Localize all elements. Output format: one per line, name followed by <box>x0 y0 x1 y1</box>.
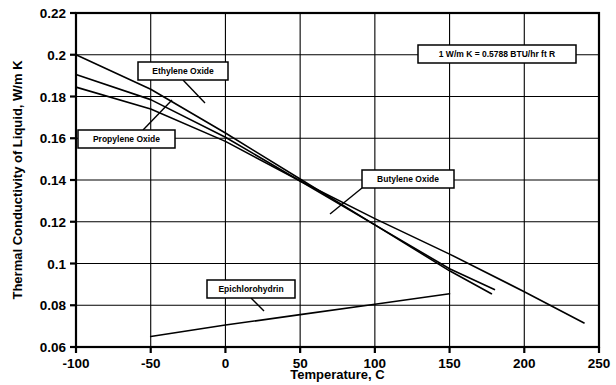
thermal-conductivity-chart: 0.060.080.10.120.140.160.180.20.22-100-5… <box>0 0 616 385</box>
series-line-butylene-oxide <box>76 87 584 323</box>
y-tick-labels: 0.060.080.10.120.140.160.180.20.22 <box>40 6 67 355</box>
butylene-oxide-label-text: Butylene Oxide <box>377 174 439 184</box>
ethylene-oxide-label-text: Ethylene Oxide <box>152 66 214 76</box>
epichlorohydrin-leader-line <box>251 298 264 311</box>
y-tick-label: 0.1 <box>47 257 66 272</box>
y-tick-label: 0.18 <box>40 90 67 105</box>
butylene-oxide-callout[interactable]: Butylene Oxide <box>330 170 454 214</box>
ethylene-oxide-leader-line <box>183 80 205 103</box>
x-tick-label: -50 <box>141 356 161 371</box>
unit-conversion-note: 1 W/m K = 0.5788 BTU/hr ft R <box>418 45 576 63</box>
propylene-oxide-label-text: Propylene Oxide <box>93 134 160 144</box>
epichlorohydrin-label-text: Epichlorohydrin <box>218 284 283 294</box>
chart-canvas: 0.060.080.10.120.140.160.180.20.22-100-5… <box>0 0 616 385</box>
y-axis-title: Thermal Conductivity of Liquid, W/m K <box>10 60 25 300</box>
epichlorohydrin-callout[interactable]: Epichlorohydrin <box>207 280 295 311</box>
x-tick-label: 200 <box>513 356 536 371</box>
y-tick-label: 0.22 <box>40 6 66 21</box>
y-tick-label: 0.14 <box>40 173 67 188</box>
unit-conversion-text: 1 W/m K = 0.5788 BTU/hr ft R <box>439 49 555 59</box>
x-axis-title: Temperature, C <box>290 367 385 382</box>
y-tick-label: 0.08 <box>40 298 67 313</box>
x-tick-label: 250 <box>588 356 611 371</box>
propylene-oxide-leader-line <box>143 100 172 130</box>
y-tick-label: 0.16 <box>40 131 67 146</box>
propylene-oxide-callout[interactable]: Propylene Oxide <box>78 100 175 148</box>
x-tick-label: 150 <box>438 356 461 371</box>
y-tick-label: 0.2 <box>47 48 66 63</box>
y-tick-label: 0.12 <box>40 215 66 230</box>
y-tick-label: 0.06 <box>40 340 67 355</box>
x-tick-label: 0 <box>222 356 230 371</box>
x-tick-label: -100 <box>62 356 89 371</box>
